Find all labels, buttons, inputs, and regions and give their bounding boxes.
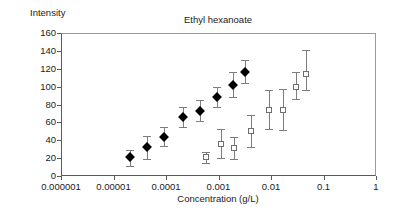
error-bar-cap xyxy=(302,90,310,91)
y-axis-tick-label: 0 xyxy=(20,171,56,181)
x-axis-tick-mark xyxy=(376,176,377,180)
error-bar-cap xyxy=(230,159,238,160)
data-point-open-square xyxy=(293,84,299,90)
error-bar-cap xyxy=(292,99,300,100)
error-bar xyxy=(306,50,307,90)
error-bar-cap xyxy=(217,158,225,159)
error-bar-cap xyxy=(241,83,249,84)
y-axis-tick-mark xyxy=(57,69,61,70)
y-axis-tick-label: 20 xyxy=(20,153,56,163)
error-bar-cap xyxy=(143,159,151,160)
error-bar-cap xyxy=(279,89,287,90)
error-bar-cap xyxy=(230,137,238,138)
x-axis-tick-mark xyxy=(324,176,325,180)
data-point-open-square xyxy=(218,141,224,147)
x-axis-tick-mark xyxy=(219,176,220,180)
y-axis-tick-mark xyxy=(57,140,61,141)
y-axis-tick-label: 60 xyxy=(20,117,56,127)
error-bar-cap xyxy=(160,146,168,147)
error-bar-cap xyxy=(302,50,310,51)
error-bar-cap xyxy=(179,127,187,128)
data-point-open-square xyxy=(280,107,286,113)
error-bar-cap xyxy=(196,121,204,122)
chart-title: Ethyl hexanoate xyxy=(0,14,398,25)
error-bar-cap xyxy=(126,166,134,167)
x-axis-tick-label: 1 xyxy=(373,182,378,192)
x-axis-tick-label: 0.000001 xyxy=(41,182,81,192)
y-axis-tick-mark xyxy=(57,122,61,123)
y-axis-tick-label: 100 xyxy=(20,82,56,92)
x-axis-tick-label: 0.01 xyxy=(262,182,281,192)
error-bar-cap xyxy=(265,90,273,91)
y-axis-tick-mark xyxy=(57,105,61,106)
y-axis-tick-mark xyxy=(57,51,61,52)
x-axis-tick-mark xyxy=(114,176,115,180)
error-bar-cap xyxy=(196,100,204,101)
y-axis-tick-label: 160 xyxy=(20,28,56,38)
y-axis-tick-label: 140 xyxy=(20,46,56,56)
data-point-open-square xyxy=(303,71,309,77)
y-axis-tick-label: 120 xyxy=(20,64,56,74)
y-axis-tick-mark xyxy=(57,158,61,159)
plot-area xyxy=(61,33,376,176)
y-axis-tick-label: 40 xyxy=(20,135,56,145)
x-axis-tick-mark xyxy=(271,176,272,180)
y-axis-tick-mark xyxy=(57,33,61,34)
error-bar-cap xyxy=(202,163,210,164)
error-bar-cap xyxy=(160,127,168,128)
error-bar-cap xyxy=(241,60,249,61)
error-bar-cap xyxy=(229,72,237,73)
x-axis-label: Concentration (g/L) xyxy=(0,193,398,204)
data-point-open-square xyxy=(231,145,237,151)
y-axis-tick-mark xyxy=(57,87,61,88)
error-bar-cap xyxy=(126,150,134,151)
x-axis-tick-label: 0.00001 xyxy=(96,182,130,192)
x-axis-tick-label: 0.1 xyxy=(317,182,330,192)
error-bar-cap xyxy=(143,136,151,137)
y-axis-tick-label: 80 xyxy=(20,100,56,110)
x-axis-tick-label: 0.001 xyxy=(207,182,231,192)
x-axis-tick-mark xyxy=(61,176,62,180)
data-point-open-square xyxy=(248,128,254,134)
x-axis-tick-label: 0.0001 xyxy=(151,182,180,192)
error-bar-cap xyxy=(265,129,273,130)
error-bar-cap xyxy=(292,72,300,73)
error-bar-cap xyxy=(229,97,237,98)
error-bar-cap xyxy=(217,129,225,130)
error-bar-cap xyxy=(247,115,255,116)
error-bar-cap xyxy=(202,152,210,153)
error-bar-cap xyxy=(213,107,221,108)
error-bar-cap xyxy=(213,87,221,88)
error-bar-cap xyxy=(247,147,255,148)
chart-container: Intensity Ethyl hexanoate 02040608010012… xyxy=(0,0,398,219)
error-bar-cap xyxy=(179,107,187,108)
data-point-open-square xyxy=(266,107,272,113)
error-bar-cap xyxy=(279,130,287,131)
data-point-open-square xyxy=(203,154,209,160)
x-axis-tick-mark xyxy=(166,176,167,180)
